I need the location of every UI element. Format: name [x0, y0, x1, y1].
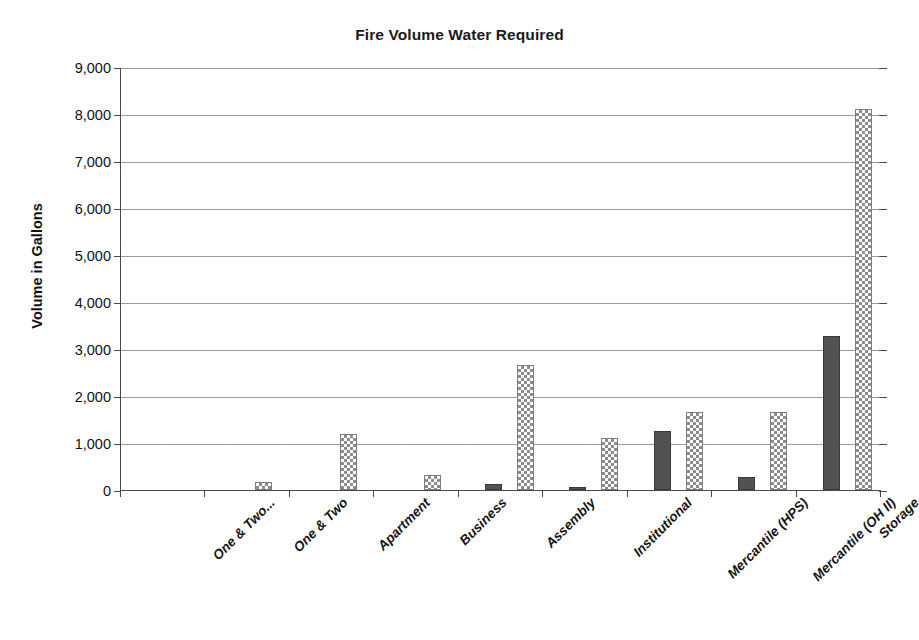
- gridline: [120, 444, 880, 445]
- bar: [601, 438, 618, 490]
- y-tick-mark-right: [879, 350, 887, 351]
- y-tick-label: 9,000: [75, 60, 111, 76]
- chart-container: Fire Volume Water Required Volume in Gal…: [0, 0, 919, 640]
- bar: [654, 431, 671, 490]
- bar: [340, 434, 357, 490]
- y-tick-label: 3,000: [75, 342, 111, 358]
- y-tick-label: 5,000: [75, 248, 111, 264]
- y-tick-mark: [114, 209, 121, 210]
- y-tick-mark-right: [879, 162, 887, 163]
- x-tick-mark: [880, 490, 881, 497]
- bar: [770, 412, 787, 490]
- y-axis-title: Volume in Gallons: [29, 166, 45, 366]
- gridline: [120, 115, 880, 116]
- y-tick-mark-right: [879, 68, 887, 69]
- gridline: [120, 303, 880, 304]
- y-tick-mark-right: [879, 303, 887, 304]
- x-axis-labels: One & Two...One & TwoApartmentBusinessAs…: [120, 495, 880, 640]
- x-axis-label: One & Two...: [210, 495, 278, 563]
- gridline: [120, 350, 880, 351]
- y-tick-label: 1,000: [75, 436, 111, 452]
- bar: [738, 477, 755, 490]
- chart-title: Fire Volume Water Required: [0, 26, 919, 44]
- x-axis-label: Assembly: [542, 495, 598, 551]
- bar: [686, 412, 703, 490]
- y-tick-label: 6,000: [75, 201, 111, 217]
- y-tick-label: 4,000: [75, 295, 111, 311]
- plot-area: 01,0002,0003,0004,0005,0006,0007,0008,00…: [120, 68, 880, 491]
- y-tick-mark: [114, 444, 121, 445]
- y-tick-label: 7,000: [75, 154, 111, 170]
- gridline: [120, 397, 880, 398]
- y-tick-mark-right: [879, 397, 887, 398]
- x-axis-label: Apartment: [375, 495, 433, 553]
- y-tick-mark: [114, 397, 121, 398]
- bar: [855, 109, 872, 490]
- y-tick-mark: [114, 350, 121, 351]
- bar: [823, 336, 840, 490]
- x-axis-label: Mercantile (HPS): [724, 495, 810, 581]
- x-axis-line: [120, 490, 880, 491]
- x-axis-label: One & Two: [291, 495, 351, 555]
- y-tick-mark: [114, 68, 121, 69]
- x-axis-label: Institutional: [630, 495, 695, 560]
- x-axis-label: Business: [457, 495, 510, 548]
- bar: [517, 365, 534, 490]
- y-tick-label: 0: [103, 483, 111, 499]
- y-tick-mark: [114, 256, 121, 257]
- bar: [255, 482, 272, 490]
- y-axis-line: [120, 68, 121, 491]
- bar: [569, 487, 586, 490]
- y-tick-label: 8,000: [75, 107, 111, 123]
- y-tick-mark-right: [879, 444, 887, 445]
- bar: [424, 475, 441, 490]
- gridline: [120, 256, 880, 257]
- y-tick-mark-right: [879, 256, 887, 257]
- y-tick-mark-right: [879, 115, 887, 116]
- y-tick-mark: [114, 303, 121, 304]
- y-tick-mark: [114, 162, 121, 163]
- gridline: [120, 68, 880, 69]
- gridline: [120, 209, 880, 210]
- y-tick-mark: [114, 115, 121, 116]
- y-tick-label: 2,000: [75, 389, 111, 405]
- bar: [485, 484, 502, 490]
- gridline: [120, 162, 880, 163]
- y-tick-mark-right: [879, 209, 887, 210]
